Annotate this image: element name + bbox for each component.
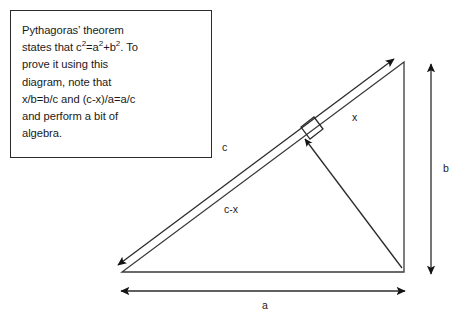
altitude-arrow	[305, 139, 402, 268]
label-side-b: b	[443, 162, 449, 174]
caption-line-7: algebra.	[22, 127, 62, 139]
label-upper-segment-x: x	[352, 111, 357, 123]
caption-line-6: and perform a bit of	[22, 110, 118, 122]
caption-line-2-mid-1: =a	[86, 41, 99, 53]
caption-line-2-mid-2: +b	[103, 41, 116, 53]
caption-line-3: prove it using this	[22, 58, 108, 70]
caption-line-5: x/b=b/c and (c-x)/a=a/c	[22, 93, 135, 105]
figure-canvas: c c-x x b a Pythagoras’ theorem states t…	[0, 0, 458, 317]
caption-line-4: diagram, note that	[22, 76, 111, 88]
caption-line-2-pre: states that c	[22, 41, 82, 53]
label-lower-segment-c-minus-x: c-x	[224, 203, 238, 215]
label-hypotenuse-c: c	[222, 141, 227, 153]
caption-box: Pythagoras’ theorem states that c2=a2+b2…	[10, 10, 212, 158]
caption-text: Pythagoras’ theorem states that c2=a2+b2…	[22, 22, 204, 142]
label-side-a: a	[262, 299, 268, 311]
caption-line-2-post: . To	[120, 41, 138, 53]
caption-line-1: Pythagoras’ theorem	[22, 24, 124, 36]
